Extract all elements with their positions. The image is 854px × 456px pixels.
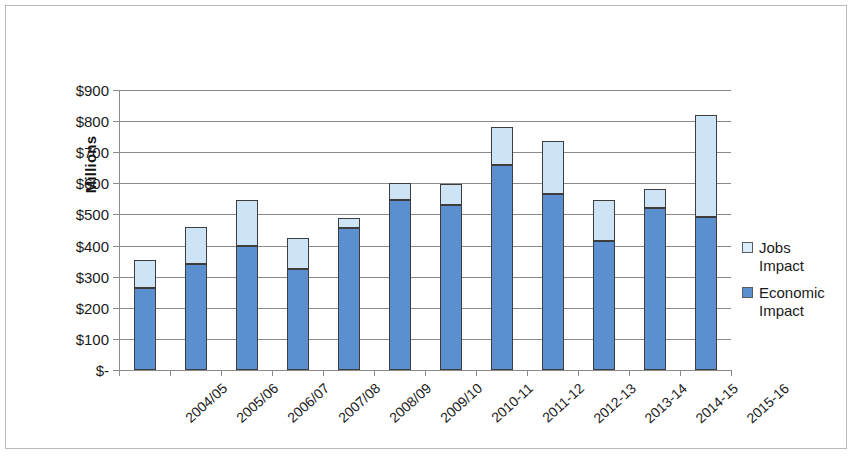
x-axis-tick-label: 2004/05 [181,380,229,426]
bar-segment-jobs-impact[interactable] [338,218,360,228]
bar-segment-jobs-impact[interactable] [287,238,309,269]
y-axis-tick-label: $600 [76,175,109,192]
x-axis-tick-label: 2008/09 [385,380,433,426]
bar-group[interactable] [695,90,717,370]
bar-group[interactable] [491,90,513,370]
bar-segment-economic-impact[interactable] [389,200,411,370]
x-axis-tick [629,370,630,376]
bar-segment-economic-impact[interactable] [236,246,258,370]
legend-label-continued: Impact [742,257,842,275]
bar-segment-jobs-impact[interactable] [491,127,513,164]
bar-segment-economic-impact[interactable] [491,165,513,370]
x-axis-tick [119,370,120,376]
bar-segment-economic-impact[interactable] [695,217,717,370]
bar-group[interactable] [185,90,207,370]
x-axis-tick [680,370,681,376]
x-axis-tick [527,370,528,376]
legend-label: Jobs [742,239,842,257]
y-axis-tick-label: $400 [76,237,109,254]
x-axis-tick-label: 2006/07 [283,380,331,426]
plot-area: $900$800$700$600$500$400$300$200$100$- [119,90,731,370]
bar-segment-economic-impact[interactable] [185,264,207,370]
y-axis-tick-label: $500 [76,206,109,223]
bar-segment-jobs-impact[interactable] [185,227,207,264]
x-axis-tick-label: 2005/06 [232,380,280,426]
y-axis-tick-label: $- [96,362,109,379]
chart-frame: Millions $900$800$700$600$500$400$300$20… [5,5,847,449]
bar-group[interactable] [440,90,462,370]
x-axis-tick-label: 2013-14 [641,380,690,426]
bar-segment-economic-impact[interactable] [440,205,462,371]
bar-segment-economic-impact[interactable] [338,228,360,370]
bar-group[interactable] [593,90,615,370]
x-axis-tick [221,370,222,376]
y-axis-tick-label: $900 [76,82,109,99]
legend-label: Economic [742,284,842,302]
x-axis-tick-label: 2009/10 [436,380,484,426]
bar-segment-economic-impact[interactable] [134,288,156,370]
bar-segment-economic-impact[interactable] [644,208,666,370]
x-axis-tick [578,370,579,376]
bar-segment-jobs-impact[interactable] [542,141,564,194]
bar-segment-jobs-impact[interactable] [695,115,717,217]
y-axis-tick-label: $800 [76,113,109,130]
bar-group[interactable] [287,90,309,370]
legend-label-continued: Impact [742,302,842,320]
x-axis-tick-label: 2015-16 [743,380,792,426]
y-axis-tick-label: $300 [76,268,109,285]
x-axis-tick [476,370,477,376]
bar-group[interactable] [134,90,156,370]
bar-segment-jobs-impact[interactable] [440,184,462,205]
bar-segment-economic-impact[interactable] [593,241,615,370]
x-axis-tick-label: 2014-15 [692,380,741,426]
bars-layer [119,90,731,370]
y-axis-tick-label: $700 [76,144,109,161]
legend-swatch-jobs-icon [742,242,753,253]
legend-entry[interactable]: JobsImpact [742,239,842,275]
bar-segment-economic-impact[interactable] [287,269,309,370]
plot-inner: $900$800$700$600$500$400$300$200$100$- [119,90,731,370]
legend-swatch-economic-icon [742,287,753,298]
bar-segment-jobs-impact[interactable] [134,260,156,288]
x-axis-tick-label: 2007/08 [334,380,382,426]
bar-segment-economic-impact[interactable] [542,194,564,370]
x-axis-tick-label: 2010-11 [487,380,535,426]
bar-segment-jobs-impact[interactable] [644,189,666,208]
bar-group[interactable] [542,90,564,370]
x-axis-tick [170,370,171,376]
x-axis-tick [425,370,426,376]
legend-entry[interactable]: EconomicImpact [742,284,842,320]
bar-segment-jobs-impact[interactable] [236,200,258,245]
bar-group[interactable] [389,90,411,370]
x-axis-tick [272,370,273,376]
x-axis-tick [374,370,375,376]
bar-group[interactable] [644,90,666,370]
y-axis-tick-label: $100 [76,330,109,347]
x-axis-tick-label: 2011-12 [538,380,586,426]
bar-segment-jobs-impact[interactable] [389,183,411,200]
x-axis-tick [731,370,732,376]
bar-segment-jobs-impact[interactable] [593,200,615,240]
x-axis-tick [323,370,324,376]
bar-group[interactable] [338,90,360,370]
x-axis-tick-label: 2012-13 [590,380,639,426]
y-axis-tick-label: $200 [76,299,109,316]
chart-legend: JobsImpactEconomicImpact [742,239,842,329]
bar-group[interactable] [236,90,258,370]
